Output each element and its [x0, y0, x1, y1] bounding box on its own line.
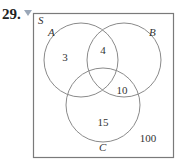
circle-c [66, 68, 140, 142]
region-c-only: 15 [98, 116, 110, 128]
label-b: B [149, 26, 156, 38]
region-outside: 100 [140, 132, 157, 144]
label-c: C [99, 141, 107, 153]
label-s: S [38, 14, 44, 26]
region-a-only: 3 [62, 51, 68, 63]
label-a: A [47, 26, 55, 38]
venn-diagram: S A B C 3 4 10 15 100 [0, 0, 186, 166]
region-a-and-b: 4 [100, 44, 106, 56]
region-b-and-c: 10 [117, 84, 129, 96]
circle-a [44, 23, 118, 97]
